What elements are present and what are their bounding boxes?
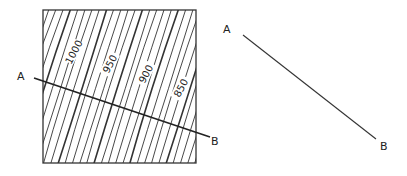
contour-labels: 1000950900850 [63, 38, 191, 101]
contour-line [0, 5, 43, 170]
contour-line [27, 5, 79, 170]
contour-line [193, 5, 245, 170]
contour-line [0, 5, 36, 170]
contour-line [6, 5, 58, 170]
contour-lines [0, 5, 281, 170]
contour-diagram: 1000950900850 A B A B [0, 0, 407, 176]
contour-line [0, 5, 29, 170]
section-end-label: B [211, 135, 219, 148]
section-start-label: A [17, 70, 25, 83]
contour-line [13, 5, 65, 170]
profile-start-label: A [223, 23, 231, 36]
contour-line [70, 5, 122, 170]
profile-end-label: B [380, 140, 388, 153]
contour-line [114, 5, 166, 170]
profile-line [243, 35, 376, 139]
contour-line [49, 5, 101, 170]
contour-line [229, 5, 281, 170]
contour-label: 1000 [63, 38, 85, 66]
